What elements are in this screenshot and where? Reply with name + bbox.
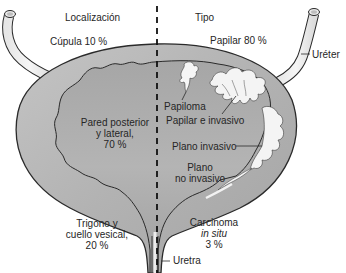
carcinoma-in-situ-label: Carcinoma in situ 3 % — [184, 217, 244, 250]
ureter-label: Uréter — [312, 49, 340, 60]
type-header: Tipo — [195, 12, 214, 23]
papilloma-label: Papiloma — [164, 101, 206, 112]
dome-label: Cúpula 10 % — [50, 36, 107, 47]
location-header: Localización — [65, 12, 120, 23]
posterior-lateral-wall-label: Pared posterior y lateral, 70 % — [80, 117, 150, 150]
left-ureter — [5, 11, 53, 79]
trigone-neck-label: Trigono y cuello vesical, 20 % — [52, 218, 142, 251]
flat-noninvasive-label: Plano no invasivo — [170, 162, 230, 184]
urethra-label: Uretra — [173, 255, 201, 266]
bladder-cancer-diagram: Localización Tipo Cúpula 10 % Pared post… — [0, 0, 346, 273]
flat-invasive-label: Plano invasivo — [172, 141, 236, 152]
right-ureter — [278, 9, 320, 83]
papillary-invasive-label: Papilar e invasivo — [166, 115, 244, 126]
papillary-label: Papilar 80 % — [210, 35, 267, 46]
